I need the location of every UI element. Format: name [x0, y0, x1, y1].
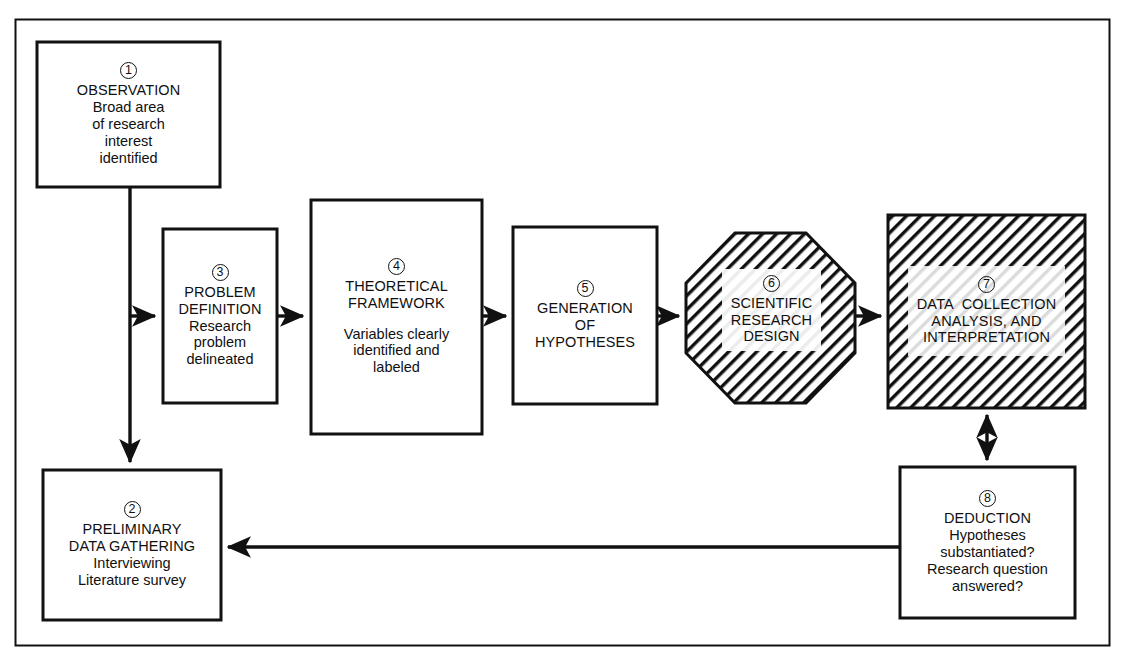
node-data-collection-analysis-interpretation-plate [908, 266, 1065, 356]
research-process-diagram: 1 OBSERVATION Broad area of research int… [0, 0, 1121, 657]
node-scientific-research-design-plate [722, 269, 821, 351]
node-generation-of-hypotheses-shape [513, 227, 657, 404]
node-preliminary-data-gathering-shape [43, 470, 221, 620]
node-observation-shape [37, 42, 220, 187]
node-deduction-shape [900, 467, 1075, 618]
node-theoretical-framework-shape [311, 200, 482, 434]
node-problem-definition-shape [163, 229, 277, 403]
